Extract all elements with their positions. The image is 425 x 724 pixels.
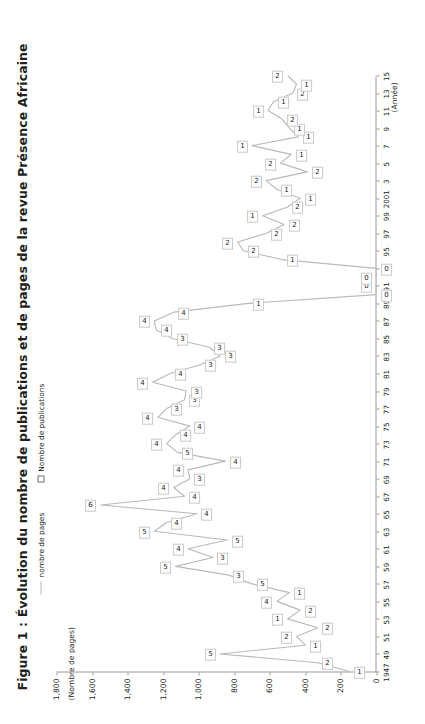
x-tick-label: 95 xyxy=(381,247,390,256)
x-tick-mark xyxy=(376,198,379,199)
data-point-label: 4 xyxy=(151,438,162,450)
data-point-label: 4 xyxy=(201,508,212,520)
legend-label-publications: Nombre de publications xyxy=(36,383,45,471)
data-point-label: 2 xyxy=(222,237,233,249)
x-tick-mark xyxy=(376,391,379,392)
plot-area xyxy=(56,76,376,672)
x-tick-mark xyxy=(376,653,379,654)
x-tick-label: 1947 xyxy=(381,663,390,681)
data-point-label: 2 xyxy=(311,167,322,179)
data-point-label: 2 xyxy=(292,202,303,214)
data-point-label: 2 xyxy=(247,246,258,258)
data-point-label: 0 xyxy=(361,272,372,284)
x-tick-mark xyxy=(376,566,379,567)
x-tick-label: 53 xyxy=(381,615,390,624)
y-tick-mark xyxy=(340,672,341,675)
data-point-label: 2 xyxy=(281,631,292,643)
data-point-label: 2 xyxy=(322,657,333,669)
data-point-label: 4 xyxy=(172,465,183,477)
data-point-label: 5 xyxy=(204,649,215,661)
x-tick-mark xyxy=(376,163,379,164)
y-tick-mark xyxy=(305,672,306,675)
y-tick-mark xyxy=(198,672,199,675)
x-tick-label: 57 xyxy=(381,580,390,589)
x-tick-label: 49 xyxy=(381,650,390,659)
data-point-label: 1 xyxy=(247,210,258,222)
data-point-label: 4 xyxy=(261,596,272,608)
y-tick-label: 1,400 xyxy=(123,678,132,712)
data-point-label: 4 xyxy=(229,456,240,468)
data-point-label: 2 xyxy=(304,605,315,617)
data-point-label: 1 xyxy=(286,254,297,266)
y-tick-label: 600 xyxy=(265,678,274,712)
x-tick-mark xyxy=(376,671,379,672)
x-tick-label: 97 xyxy=(381,229,390,238)
y-tick-label: 1,800 xyxy=(52,678,61,712)
x-tick-mark xyxy=(376,496,379,497)
x-tick-mark xyxy=(376,531,379,532)
data-point-label: 0 xyxy=(381,263,392,275)
x-tick-label: 55 xyxy=(381,597,390,606)
x-tick-label: 9 xyxy=(381,126,390,131)
x-tick-mark xyxy=(376,636,379,637)
x-tick-label: 65 xyxy=(381,510,390,519)
figure-title: Figure 1 : Évolution du nombre de public… xyxy=(14,43,29,690)
legend-label-pages: nombre de pages xyxy=(36,512,45,577)
y-tick-label: 200 xyxy=(336,678,345,712)
x-tick-label: 3 xyxy=(381,179,390,184)
data-point-label: 4 xyxy=(142,412,153,424)
data-point-label: 3 xyxy=(176,333,187,345)
y-tick-mark xyxy=(163,672,164,675)
x-tick-mark xyxy=(376,461,379,462)
y-tick-mark xyxy=(269,672,270,675)
x-tick-mark xyxy=(376,338,379,339)
square-swatch-icon xyxy=(37,475,44,482)
y-tick-label: 1,000 xyxy=(194,678,203,712)
legend-item-publications: Nombre de publications xyxy=(36,383,45,482)
data-point-label: 2 xyxy=(270,228,281,240)
x-tick-mark xyxy=(376,303,379,304)
data-point-label: 4 xyxy=(160,324,171,336)
x-tick-label: 85 xyxy=(381,334,390,343)
data-point-label: 3 xyxy=(217,552,228,564)
x-tick-label: 75 xyxy=(381,422,390,431)
x-tick-label: 81 xyxy=(381,369,390,378)
line-swatch-icon xyxy=(40,581,41,594)
x-tick-label: 77 xyxy=(381,404,390,413)
y-tick-label: 800 xyxy=(229,678,238,712)
data-point-label: 1 xyxy=(272,614,283,626)
x-tick-label: 15 xyxy=(381,71,390,80)
data-point-label: 3 xyxy=(171,403,182,415)
data-point-label: 5 xyxy=(256,579,267,591)
x-tick-label: 61 xyxy=(381,545,390,554)
data-point-label: 1 xyxy=(309,640,320,652)
data-point-label: 1 xyxy=(281,184,292,196)
x-tick-mark xyxy=(376,618,379,619)
x-tick-label: 7 xyxy=(381,144,390,149)
x-tick-label: 99 xyxy=(381,212,390,221)
x-tick-mark xyxy=(376,583,379,584)
data-point-label: 5 xyxy=(138,526,149,538)
data-point-label: 1 xyxy=(236,140,247,152)
data-point-label: 1 xyxy=(293,587,304,599)
data-point-label: 5 xyxy=(181,447,192,459)
data-point-label: 2 xyxy=(286,114,297,126)
y-tick-mark xyxy=(56,672,57,675)
y-tick-label: 1,600 xyxy=(87,678,96,712)
x-tick-label: 5 xyxy=(381,161,390,166)
y-tick-mark xyxy=(234,672,235,675)
x-tick-mark xyxy=(376,250,379,251)
y-tick-label: 400 xyxy=(300,678,309,712)
data-point-label: 1 xyxy=(354,666,365,678)
x-tick-label: 79 xyxy=(381,387,390,396)
data-point-label: 3 xyxy=(194,473,205,485)
legend-item-pages: nombre de pages xyxy=(36,512,45,594)
data-point-label: 4 xyxy=(180,430,191,442)
x-tick-mark xyxy=(376,215,379,216)
data-point-label: 5 xyxy=(160,561,171,573)
x-tick-label: 71 xyxy=(381,457,390,466)
x-tick-mark xyxy=(376,93,379,94)
data-point-label: 4 xyxy=(189,491,200,503)
x-tick-mark xyxy=(376,110,379,111)
data-point-label: 3 xyxy=(190,386,201,398)
